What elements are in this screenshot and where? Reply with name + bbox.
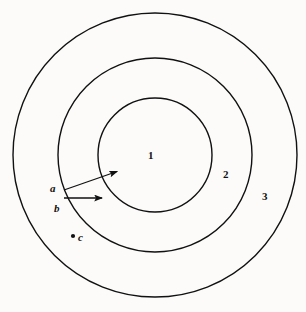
point-c-dot <box>71 234 75 238</box>
point-label-b: b <box>54 203 60 214</box>
ring-middle-circle <box>58 58 252 252</box>
ring-label-2: 2 <box>223 169 229 180</box>
point-label-c: c <box>78 232 83 243</box>
arrow-a-vector <box>64 172 117 191</box>
concentric-rings-figure: 1 2 3 a b c <box>0 0 306 312</box>
ring-inner-circle <box>98 98 212 212</box>
ring-label-3: 3 <box>262 191 268 202</box>
point-label-a: a <box>50 183 56 194</box>
ring-outer-circle <box>13 13 297 297</box>
ring-label-1: 1 <box>148 150 154 161</box>
